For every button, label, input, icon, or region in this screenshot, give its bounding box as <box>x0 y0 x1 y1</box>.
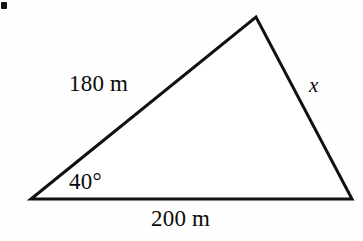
triangle-drawing <box>0 0 363 241</box>
angle-label-left: 40° <box>69 170 102 193</box>
side-label-left: 180 m <box>69 72 128 95</box>
side-label-base: 200 m <box>151 207 210 230</box>
triangle-figure: 180 m 40° 200 m x <box>0 0 363 241</box>
side-label-right-unknown: x <box>309 75 318 96</box>
